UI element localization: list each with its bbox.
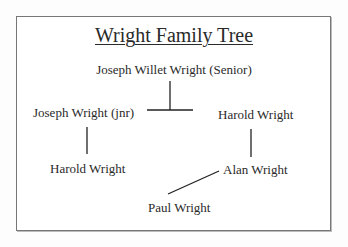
connector-lines [0, 0, 348, 247]
edge-alan-to-paul [168, 171, 219, 194]
